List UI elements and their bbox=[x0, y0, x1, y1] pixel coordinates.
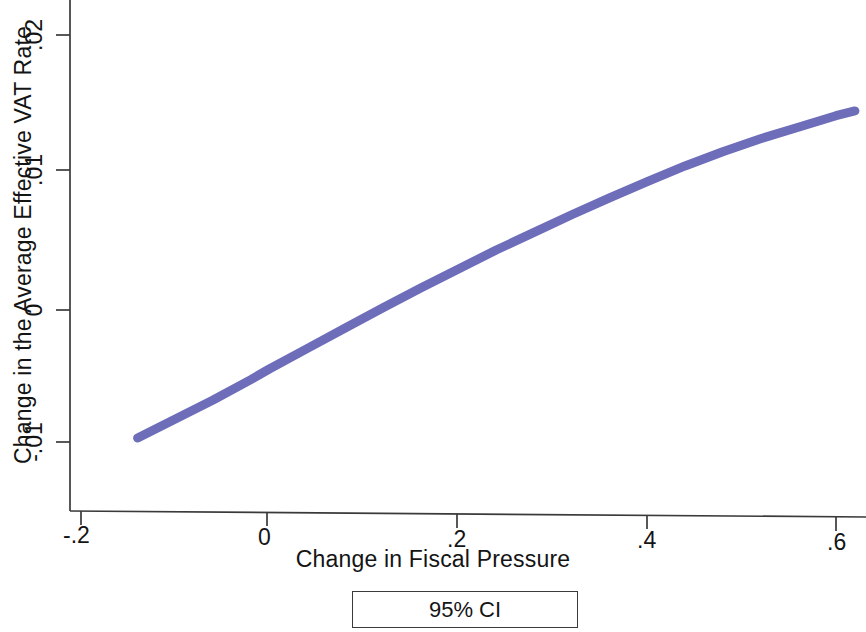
plot-area bbox=[0, 0, 866, 632]
x-axis-line bbox=[70, 511, 866, 517]
confidence-interval-curve bbox=[138, 111, 855, 438]
vat-marginal-effects-chart: Change in the Average Effective VAT Rate… bbox=[0, 0, 866, 632]
x-axis-title: Change in Fiscal Pressure bbox=[0, 546, 866, 573]
legend-box: 95% CI bbox=[352, 591, 578, 628]
legend-label-95-ci: 95% CI bbox=[353, 592, 577, 627]
x-tick-label--0.2: -.2 bbox=[63, 522, 90, 549]
